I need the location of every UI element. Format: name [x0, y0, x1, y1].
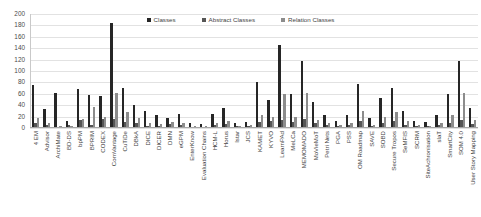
x-axis-category-label: KYVO	[268, 131, 274, 148]
x-axis-category-label: Horus	[223, 131, 229, 147]
x-axis-category: DICE	[142, 129, 153, 217]
bar-group[interactable]	[456, 14, 467, 128]
bar-group[interactable]	[467, 14, 478, 128]
x-axis-category: DBkA	[131, 129, 142, 217]
bar[interactable]	[395, 112, 397, 128]
x-axis-category: KAMET	[254, 129, 265, 217]
bar-group[interactable]	[75, 14, 86, 128]
bar[interactable]	[306, 93, 308, 128]
bar-group[interactable]	[288, 14, 299, 128]
x-axis-category: BD-DS	[64, 129, 75, 217]
x-axis-category: eGPM	[176, 129, 187, 217]
bar[interactable]	[110, 23, 112, 128]
bar[interactable]	[93, 107, 95, 128]
bar-group[interactable]	[332, 14, 343, 128]
bar[interactable]	[278, 45, 280, 128]
bar-group[interactable]	[198, 14, 209, 128]
x-axis-category-label: PSS	[346, 131, 352, 143]
x-axis-labels: 4 EMAdvisorArchiMateBD-DSbpPMBPRIMCODEXC…	[30, 129, 478, 217]
x-axis-category-label: OM Roadmap	[357, 131, 363, 169]
x-axis-category-label: User Story Mapping	[469, 131, 475, 185]
x-axis-category: SCRM	[411, 129, 422, 217]
x-axis-category-label: SOBD	[380, 131, 386, 148]
bar-group[interactable]	[366, 14, 377, 128]
x-axis-category: Advisor	[41, 129, 52, 217]
bar[interactable]	[32, 85, 34, 128]
x-axis-category-label: MeLCa	[290, 131, 296, 151]
bar-group[interactable]	[209, 14, 220, 128]
y-axis-tick-label: 80	[18, 79, 25, 85]
bar-group[interactable]	[30, 14, 41, 128]
bar-group[interactable]	[344, 14, 355, 128]
x-axis-category: MEMOMADO	[299, 129, 310, 217]
bar[interactable]	[458, 61, 460, 128]
bar-group[interactable]	[377, 14, 388, 128]
bar-group[interactable]	[120, 14, 131, 128]
x-axis-category-label: KAMET	[257, 131, 263, 152]
x-axis-category-label: BPRIM	[89, 131, 95, 150]
x-axis-category: SOM 4.0	[456, 129, 467, 217]
bar-group[interactable]	[254, 14, 265, 128]
x-axis-category-label: SAVE	[369, 131, 375, 147]
bar-group[interactable]	[389, 14, 400, 128]
bar[interactable]	[126, 112, 128, 128]
bar-group[interactable]	[220, 14, 231, 128]
x-axis-category-label: BD-DS	[66, 131, 72, 150]
y-axis-tick-label: 120	[14, 56, 25, 62]
x-axis-category: Secure Tropos	[389, 129, 400, 217]
x-axis-category: DMN	[164, 129, 175, 217]
bar-group[interactable]	[86, 14, 97, 128]
bar-group[interactable]	[276, 14, 287, 128]
bar[interactable]	[463, 93, 465, 128]
bar-group[interactable]	[422, 14, 433, 128]
bar[interactable]	[115, 93, 117, 128]
x-axis-category-label: DMN	[167, 131, 173, 145]
bar-group[interactable]	[108, 14, 119, 128]
x-axis-category: LearnPAd	[276, 129, 287, 217]
bar-group[interactable]	[433, 14, 444, 128]
bar[interactable]	[283, 94, 285, 128]
y-axis-tick-label: 40	[18, 102, 25, 108]
x-axis-category: ComVantage	[108, 129, 119, 217]
bar-group[interactable]	[299, 14, 310, 128]
x-axis-category-label: bpPM	[77, 131, 83, 147]
bar-group[interactable]	[52, 14, 63, 128]
bar-group[interactable]	[131, 14, 142, 128]
x-axis-category-label: ArchiMate	[55, 131, 61, 158]
x-axis-category-label: Petri Nets	[324, 131, 330, 158]
bar-group[interactable]	[176, 14, 187, 128]
bar-group[interactable]	[310, 14, 321, 128]
bar-group[interactable]	[187, 14, 198, 128]
bar[interactable]	[362, 111, 364, 128]
x-axis-category: CuTiDe	[120, 129, 131, 217]
bar-group[interactable]	[164, 14, 175, 128]
bar[interactable]	[256, 82, 258, 128]
x-axis-category: SOBD	[377, 129, 388, 217]
bar-group[interactable]	[41, 14, 52, 128]
bar-group[interactable]	[232, 14, 243, 128]
x-axis-category: User Story Mapping	[467, 129, 478, 217]
bar-group[interactable]	[411, 14, 422, 128]
bar-group[interactable]	[355, 14, 366, 128]
x-axis-category: Horus	[220, 129, 231, 217]
x-axis-category: OM Roadmap	[355, 129, 366, 217]
bar[interactable]	[88, 95, 90, 128]
bar-group[interactable]	[445, 14, 456, 128]
bar-group[interactable]	[97, 14, 108, 128]
x-axis-category-label: SmartCity	[447, 131, 453, 158]
bar-group[interactable]	[153, 14, 164, 128]
bar-group[interactable]	[243, 14, 254, 128]
x-axis-category-label: Advisor	[44, 131, 50, 151]
bar-group[interactable]	[64, 14, 75, 128]
bar-group[interactable]	[400, 14, 411, 128]
x-axis-category: PGA	[332, 129, 343, 217]
bar-group[interactable]	[321, 14, 332, 128]
x-axis-category: JCS	[243, 129, 254, 217]
x-axis-category: Petri Nets	[321, 129, 332, 217]
x-axis-category-label: PGA	[335, 131, 341, 144]
bar-group[interactable]	[265, 14, 276, 128]
x-axis-category: ArchiMate	[52, 129, 63, 217]
bar[interactable]	[54, 93, 56, 128]
x-axis-category: slaT	[433, 129, 444, 217]
bar-group[interactable]	[142, 14, 153, 128]
